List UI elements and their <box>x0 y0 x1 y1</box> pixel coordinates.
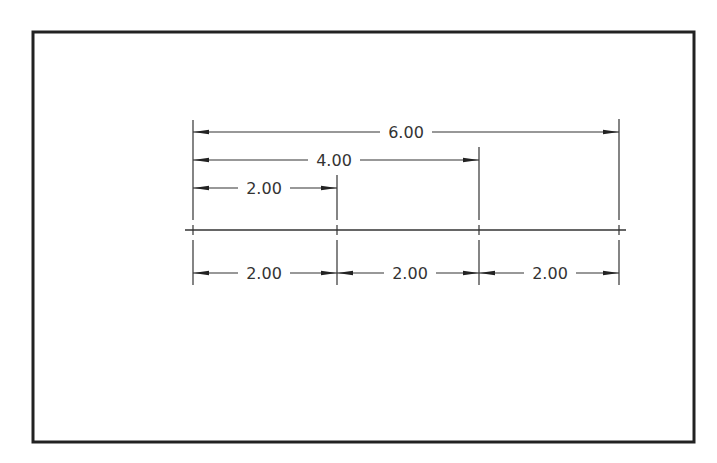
dimension-label: 2.00 <box>246 179 282 198</box>
dimension-label: 6.00 <box>388 123 424 142</box>
chain-dimension: 2.00 <box>479 264 619 283</box>
chain-dimension: 2.00 <box>193 264 337 283</box>
drawing-border <box>33 32 694 442</box>
chain-dimension: 2.00 <box>337 264 479 283</box>
dimension-label: 4.00 <box>316 151 352 170</box>
extension-lines <box>193 119 619 285</box>
overall-dimension: 4.00 <box>193 151 479 170</box>
overall-dimension: 6.00 <box>193 123 619 142</box>
dimension-group: 6.004.002.002.002.002.00 <box>193 123 619 283</box>
dimension-label: 2.00 <box>532 264 568 283</box>
overall-dimension: 2.00 <box>193 179 337 198</box>
dimension-label: 2.00 <box>246 264 282 283</box>
drawing-canvas: 6.004.002.002.002.002.00 <box>0 0 717 463</box>
dimension-label: 2.00 <box>392 264 428 283</box>
